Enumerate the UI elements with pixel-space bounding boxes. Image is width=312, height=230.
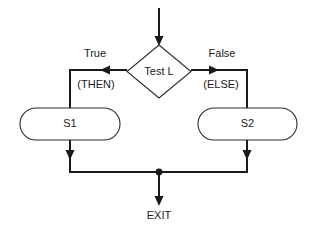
process-s2-label: S2 <box>241 117 254 129</box>
process-s1-label: S1 <box>63 117 76 129</box>
s1-exit-connector <box>66 140 75 173</box>
decision-node-label: Test L <box>144 65 173 77</box>
process-node-s2: S2 <box>198 108 297 140</box>
exit-arrowhead-icon <box>155 196 164 206</box>
flowchart-canvas: Test L True (THEN) False (ELSE) S1 S2 <box>0 0 312 230</box>
left-branch-condition-label: True <box>84 47 106 59</box>
s2-exit-connector <box>243 140 252 173</box>
entry-connector <box>155 8 164 46</box>
s1-exit-arrowhead-icon <box>66 150 75 160</box>
right-branch-arrowhead-icon <box>209 66 219 75</box>
right-branch-condition-label: False <box>209 47 236 59</box>
decision-node: Test L <box>127 45 191 98</box>
left-branch-keyword-label: (THEN) <box>77 78 114 90</box>
right-branch-keyword-label: (ELSE) <box>203 78 238 90</box>
flowchart-diagram: Test L True (THEN) False (ELSE) S1 S2 <box>0 0 312 230</box>
exit-terminal-label: EXIT <box>147 209 172 221</box>
process-node-s1: S1 <box>20 108 120 140</box>
s2-exit-arrowhead-icon <box>243 150 252 160</box>
left-branch-arrowhead-icon <box>100 66 110 75</box>
exit-connector <box>155 172 164 206</box>
